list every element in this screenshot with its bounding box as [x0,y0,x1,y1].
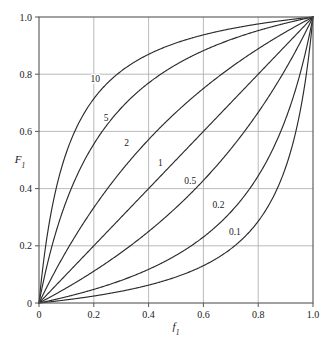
x-tick-label: 1.0 [307,309,320,320]
curve-label-1: 1 [158,158,163,168]
y-tick-label: 0.6 [20,126,33,137]
curve-alpha-1 [39,17,313,303]
curves-group [39,17,313,303]
curve-label-0.5: 0.5 [184,176,196,186]
curve-label-10: 10 [90,74,100,84]
x-tick-label: 0.4 [142,309,155,320]
x-axis-title: f1 [173,320,180,337]
curve-label-2: 2 [124,138,129,148]
y-tick-label: 0.8 [20,69,33,80]
y-tick-label: 1.0 [20,12,33,23]
y-tick-label: 0.2 [20,240,33,251]
y-tick-label: 0 [27,298,32,309]
x-tick-label: 0.6 [197,309,210,320]
y-tick-label: 0.4 [20,183,33,194]
x-tick-label: 0 [37,309,42,320]
curve-label-0.1: 0.1 [229,227,241,237]
equilibrium-chart-svg: 00.20.40.60.81.0 00.20.40.60.81.0 101055… [0,0,333,337]
curve-label-0.2: 0.2 [213,200,225,210]
axis-title-subscript: 1 [176,328,180,337]
equilibrium-chart-figure: 00.20.40.60.81.0 00.20.40.60.81.0 101055… [0,0,333,337]
y-axis-title: F1 [14,153,25,170]
x-tick-label: 0.8 [252,309,265,320]
x-tick-label: 0.2 [88,309,101,320]
curve-label-5: 5 [104,113,109,123]
axis-title-subscript: 1 [21,161,25,170]
x-tick-labels-group: 00.20.40.60.81.0 [37,309,320,320]
curve-labels-group: 10105522110.50.50.20.20.10.1 [90,74,241,238]
